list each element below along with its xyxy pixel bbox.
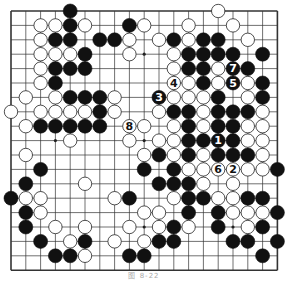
black-stone (63, 33, 77, 47)
white-stone (241, 220, 254, 233)
black-stone (256, 90, 270, 104)
star-point (143, 225, 146, 228)
black-stone (34, 234, 48, 248)
move-number: 5 (229, 77, 237, 90)
black-stone (122, 249, 136, 263)
white-stone (78, 177, 91, 190)
move-number: 6 (214, 163, 222, 176)
white-stone (226, 206, 239, 219)
white-stone (182, 19, 195, 32)
white-stone (256, 206, 269, 219)
white-stone (167, 48, 180, 61)
white-stone (78, 105, 91, 118)
star-point (143, 139, 146, 142)
black-stone (241, 105, 255, 119)
white-stone (182, 76, 195, 89)
white-stone (256, 105, 269, 118)
black-stone (270, 162, 284, 176)
white-stone (197, 177, 210, 190)
black-stone (167, 33, 181, 47)
black-stone (182, 191, 196, 205)
white-stone (167, 148, 180, 161)
figure-caption: 图 8-22 (0, 270, 288, 280)
white-stone (241, 33, 254, 46)
black-stone (48, 76, 62, 90)
black-stone (196, 47, 210, 61)
black-stone (63, 18, 77, 32)
black-stone (78, 62, 92, 76)
white-stone (197, 91, 210, 104)
white-stone (34, 48, 47, 61)
white-stone (78, 249, 91, 262)
black-stone (241, 62, 255, 76)
white-stone (108, 105, 121, 118)
black-stone (196, 33, 210, 47)
black-stone (93, 33, 107, 47)
black-stone (137, 249, 151, 263)
black-stone (211, 33, 225, 47)
white-stone (123, 33, 136, 46)
black-stone (167, 162, 181, 176)
white-stone (256, 120, 269, 133)
black-stone (19, 220, 33, 234)
black-stone (63, 90, 77, 104)
white-stone (152, 220, 165, 233)
star-point (231, 225, 234, 228)
white-stone (49, 48, 62, 61)
white-stone (167, 192, 180, 205)
white-stone (138, 148, 151, 161)
black-stone (34, 162, 48, 176)
white-stone (167, 91, 180, 104)
black-stone (63, 4, 77, 18)
white-stone (63, 134, 76, 147)
black-stone (34, 119, 48, 133)
white-stone (49, 91, 62, 104)
white-stone (152, 33, 165, 46)
star-point (143, 53, 146, 56)
white-stone (226, 177, 239, 190)
white-stone (19, 120, 32, 133)
white-stone (212, 4, 225, 17)
black-stone (78, 47, 92, 61)
black-stone (108, 33, 122, 47)
black-stone (211, 119, 225, 133)
black-stone (226, 105, 240, 119)
black-stone (78, 90, 92, 104)
move-number: 3 (155, 91, 163, 104)
white-stone (167, 62, 180, 75)
black-stone (4, 191, 18, 205)
black-stone (137, 162, 151, 176)
black-stone (78, 234, 92, 248)
black-stone (152, 234, 166, 248)
black-stone (48, 249, 62, 263)
white-stone (78, 220, 91, 233)
white-stone (138, 19, 151, 32)
black-stone (93, 105, 107, 119)
white-stone (152, 105, 165, 118)
white-stone (167, 134, 180, 147)
white-stone (182, 91, 195, 104)
white-stone (49, 220, 62, 233)
white-stone (4, 105, 17, 118)
black-stone (211, 220, 225, 234)
white-stone (197, 120, 210, 133)
white-stone (226, 192, 239, 205)
white-stone (138, 235, 151, 248)
black-stone (211, 105, 225, 119)
white-stone (256, 148, 269, 161)
black-stone (93, 119, 107, 133)
black-stone (182, 62, 196, 76)
black-stone (122, 191, 136, 205)
white-stone (256, 134, 269, 147)
white-stone (138, 120, 151, 133)
black-stone (256, 47, 270, 61)
black-stone (226, 134, 240, 148)
black-stone (211, 148, 225, 162)
white-stone (197, 163, 210, 176)
white-stone (19, 91, 32, 104)
white-stone (152, 206, 165, 219)
white-stone (212, 76, 225, 89)
move-number: 1 (214, 134, 222, 147)
black-stone (270, 234, 284, 248)
black-stone (182, 177, 196, 191)
